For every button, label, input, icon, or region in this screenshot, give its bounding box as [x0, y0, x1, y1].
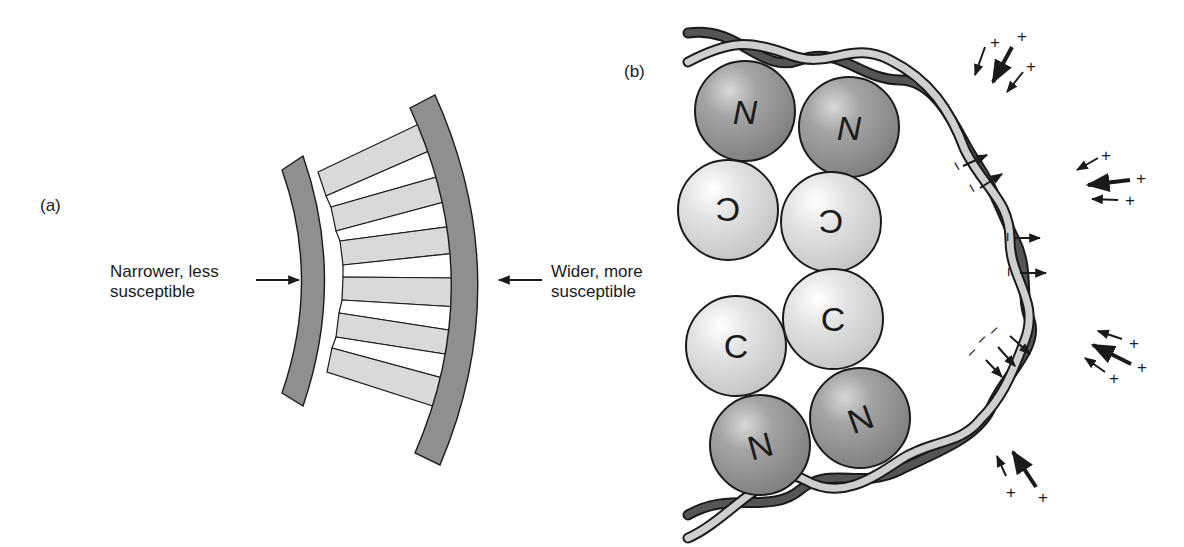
minus-sign: −: [999, 267, 1018, 277]
plus-sign: +: [990, 33, 1000, 52]
sphere-letter-flipped: C: [716, 191, 741, 229]
plus-sign: +: [1129, 334, 1139, 353]
sphere-c-lower-left: C: [686, 296, 786, 396]
sphere-n-bottom-right: N: [810, 368, 910, 468]
positive-arrow-strong: [1013, 452, 1036, 487]
negative-arrow: [998, 347, 1015, 366]
minus-sign: −: [962, 342, 983, 363]
plus-sign: +: [1006, 483, 1016, 502]
plus-sign: +: [1017, 27, 1027, 46]
sphere-c-lower-right: C: [783, 269, 883, 369]
minus-sign: −: [946, 157, 967, 175]
positive-arrow-strong: [1093, 345, 1131, 364]
negative-arrow: [986, 360, 1002, 377]
positive-arrow: [997, 456, 1006, 476]
plus-sign: +: [1136, 169, 1146, 188]
positive-arrow-strong: [1088, 180, 1130, 185]
plus-sign: +: [1038, 488, 1048, 507]
plus-sign: +: [1125, 191, 1135, 210]
sphere-n-top-left: N: [695, 61, 795, 161]
plus-sign: +: [1026, 57, 1036, 76]
plus-sign: +: [1137, 358, 1147, 377]
positive-arrow-strong: [993, 47, 1012, 82]
sphere-letter: C: [724, 327, 749, 365]
plus-sign: +: [1101, 146, 1111, 165]
sphere-letter: C: [821, 300, 846, 338]
positive-arrow: [975, 47, 985, 75]
protein-spheres: N N C C C C N N: [678, 61, 910, 495]
sphere-letter: N: [837, 109, 862, 147]
figure-canvas: N N C C C C N N: [0, 0, 1184, 547]
sphere-c-upper-left: C: [678, 160, 778, 260]
sphere-c-upper-right: C: [781, 172, 881, 272]
minus-sign: −: [998, 232, 1017, 242]
sphere-letter-flipped: C: [819, 203, 844, 241]
positive-arrow: [1098, 331, 1122, 339]
sphere-n-bottom-left: N: [710, 395, 810, 495]
sphere-letter: N: [733, 93, 758, 131]
plus-sign: +: [1109, 369, 1119, 388]
bent-dna-segment: [282, 95, 478, 465]
positive-arrow: [1085, 358, 1105, 372]
positive-arrow: [1007, 72, 1023, 92]
sphere-n-top-right: N: [799, 77, 899, 177]
positive-arrow: [1092, 199, 1118, 200]
positive-arrow: [1077, 158, 1098, 170]
minus-sign: −: [961, 179, 982, 197]
